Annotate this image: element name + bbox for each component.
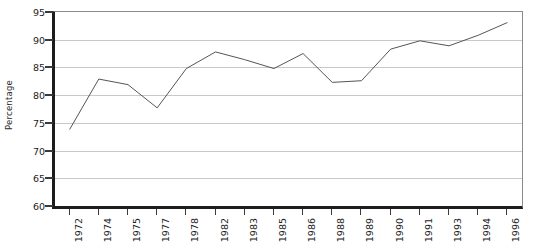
x-axis-tick-mark [419, 209, 420, 215]
series-polyline [70, 23, 508, 130]
x-axis-tick-label: 1975 [131, 218, 142, 242]
x-axis-tick-mark [477, 209, 478, 215]
x-axis-tick-mark [506, 209, 507, 215]
y-axis-tick-mark [45, 11, 53, 13]
x-axis-tick-mark [156, 209, 157, 215]
x-axis-tick-label: 1990 [394, 218, 405, 242]
y-axis-tick-mark [45, 39, 53, 41]
y-axis-tick-mark [45, 177, 53, 179]
y-axis-tick-mark [45, 122, 53, 124]
x-axis-tick-mark [127, 209, 128, 215]
x-axis-tick-label: 1974 [102, 218, 113, 242]
y-axis-tick-mark [45, 205, 53, 207]
x-axis-tick-label: 1989 [364, 218, 375, 242]
x-axis-tick-label: 1972 [73, 218, 84, 242]
y-axis-title: Percentage [0, 0, 18, 210]
y-axis-title-label: Percentage [4, 80, 14, 130]
x-axis-tick-label: 1983 [248, 218, 259, 242]
x-axis-tick-mark [215, 209, 216, 215]
y-axis-tick-label: 95 [33, 7, 45, 18]
x-axis-tick-label: 1978 [189, 218, 200, 242]
x-axis-tick-label: 1985 [277, 218, 288, 242]
line-chart: Percentage 6065707580859095 197219741975… [0, 0, 536, 248]
y-axis-tick-mark [45, 66, 53, 68]
y-axis-tick-label: 85 [33, 62, 45, 73]
x-axis-tick-label: 1996 [510, 218, 521, 242]
x-axis-tick-label: 1986 [306, 218, 317, 242]
x-axis-tick-label: 1993 [452, 218, 463, 242]
plot-area [52, 11, 523, 209]
x-axis-tick-mark [273, 209, 274, 215]
x-axis-tick-mark [185, 209, 186, 215]
y-axis-tick-label: 65 [33, 173, 45, 184]
y-axis-tick-label: 60 [33, 201, 45, 212]
y-axis-tick-labels: 6065707580859095 [18, 0, 48, 248]
y-axis-tick-mark [45, 150, 53, 152]
x-axis-tick-label: 1977 [160, 218, 171, 242]
y-axis-tick-label: 90 [33, 34, 45, 45]
x-axis-tick-label: 1994 [481, 218, 492, 242]
data-series-line [55, 12, 522, 206]
y-axis-tick-label: 70 [33, 145, 45, 156]
x-axis-tick-label: 1991 [423, 218, 434, 242]
y-axis-tick-label: 75 [33, 117, 45, 128]
x-axis-tick-label: 1988 [335, 218, 346, 242]
x-axis-tick-mark [448, 209, 449, 215]
x-axis-tick-mark [98, 209, 99, 215]
x-axis-tick-mark [302, 209, 303, 215]
x-axis-tick-mark [331, 209, 332, 215]
x-axis-tick-mark [360, 209, 361, 215]
x-axis-tick-label: 1982 [219, 218, 230, 242]
x-axis-tick-mark [244, 209, 245, 215]
y-axis-tick-mark [45, 94, 53, 96]
y-axis-tick-label: 80 [33, 90, 45, 101]
x-axis-tick-mark [69, 209, 70, 215]
x-axis-tick-mark [390, 209, 391, 215]
